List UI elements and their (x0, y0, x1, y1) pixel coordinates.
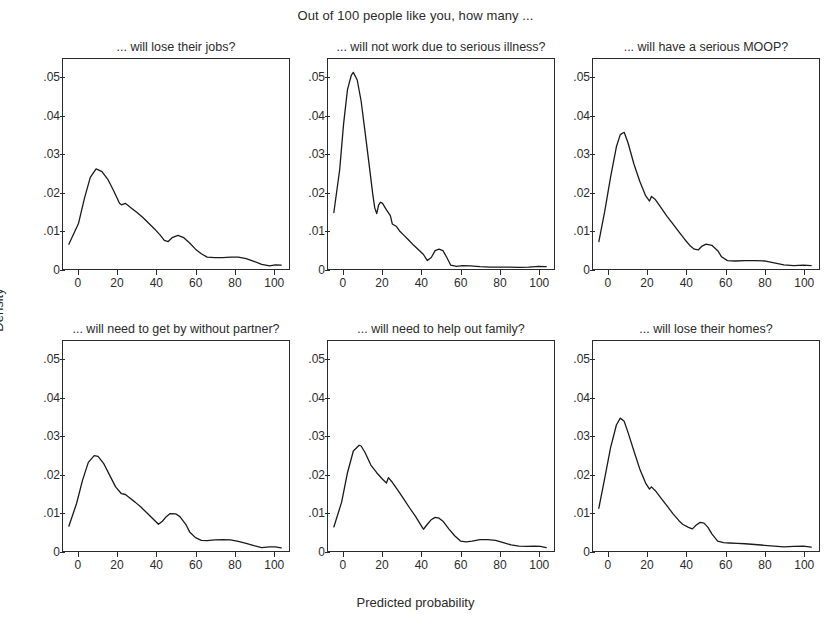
x-tick-label: 40 (680, 558, 693, 572)
x-tick-mark (804, 270, 805, 275)
y-tick-label: 0 (318, 263, 325, 277)
y-tick-label: .02 (43, 468, 60, 482)
y-tick-label: .04 (43, 391, 60, 405)
figure-title: Out of 100 people like you, how many ... (0, 8, 831, 23)
x-tick-mark (647, 552, 648, 557)
panel-serious-moop-plot-area (592, 58, 820, 270)
panel-serious-moop-x-axis: 020406080100 (592, 270, 820, 292)
x-tick-mark (647, 270, 648, 275)
y-tick-label: .01 (308, 224, 325, 238)
y-tick-label: .05 (43, 70, 60, 84)
x-tick-mark (382, 552, 383, 557)
x-tick-label: 80 (228, 558, 241, 572)
x-tick-mark (765, 270, 766, 275)
x-tick-label: 100 (794, 276, 814, 290)
x-tick-label: 60 (454, 558, 467, 572)
y-tick-mark (325, 475, 330, 476)
x-tick-mark (461, 552, 462, 557)
panel-lose-jobs-plot-area (62, 58, 290, 270)
panel-help-family-plot-area (327, 340, 555, 552)
panel-lose-jobs-density-curve (63, 59, 289, 269)
y-tick-label: .03 (43, 147, 60, 161)
y-tick-label: 0 (53, 263, 60, 277)
x-tick-label: 80 (228, 276, 241, 290)
y-tick-mark (590, 193, 595, 194)
x-tick-label: 60 (189, 558, 202, 572)
x-tick-mark (608, 270, 609, 275)
x-tick-label: 20 (110, 276, 123, 290)
x-tick-mark (726, 270, 727, 275)
y-tick-mark (325, 154, 330, 155)
panel-lose-jobs-title: ... will lose their jobs? (62, 40, 290, 54)
panel-lose-jobs-x-axis: 020406080100 (62, 270, 290, 292)
y-tick-label: 0 (318, 545, 325, 559)
y-tick-mark (325, 231, 330, 232)
x-tick-mark (804, 552, 805, 557)
y-tick-mark (590, 116, 595, 117)
y-tick-label: .01 (573, 506, 590, 520)
x-tick-label: 20 (110, 558, 123, 572)
x-tick-mark (421, 270, 422, 275)
x-tick-mark (765, 552, 766, 557)
x-tick-label: 0 (74, 276, 81, 290)
panel-serious-moop-title: ... will have a serious MOOP? (592, 40, 820, 54)
x-tick-label: 40 (415, 558, 428, 572)
x-tick-label: 40 (680, 276, 693, 290)
y-tick-mark (590, 359, 595, 360)
x-tick-mark (461, 270, 462, 275)
y-tick-mark (60, 77, 65, 78)
y-tick-mark (325, 359, 330, 360)
x-tick-label: 0 (74, 558, 81, 572)
x-tick-label: 20 (640, 276, 653, 290)
x-tick-label: 100 (794, 558, 814, 572)
x-tick-label: 20 (375, 276, 388, 290)
panel-without-partner-plot-area (62, 340, 290, 552)
x-tick-label: 60 (719, 276, 732, 290)
y-tick-label: .02 (573, 186, 590, 200)
y-tick-label: .03 (43, 429, 60, 443)
x-tick-label: 0 (604, 558, 611, 572)
y-tick-label: .04 (43, 109, 60, 123)
panel-serious-illness-plot-area (327, 58, 555, 270)
x-tick-label: 80 (758, 276, 771, 290)
x-tick-label: 60 (719, 558, 732, 572)
y-tick-label: .05 (573, 352, 590, 366)
y-tick-mark (60, 513, 65, 514)
y-tick-label: .04 (573, 391, 590, 405)
y-tick-mark (590, 154, 595, 155)
x-axis-title: Predicted probability (0, 595, 831, 610)
panel-lose-homes-x-axis: 020406080100 (592, 552, 820, 574)
panel-serious-moop-y-axis: 0.01.02.03.04.05 (560, 58, 590, 270)
panel-lose-jobs: ... will lose their jobs?0.01.02.03.04.0… (62, 40, 290, 270)
x-tick-mark (196, 270, 197, 275)
panel-lose-homes: ... will lose their homes?0.01.02.03.04.… (592, 322, 820, 552)
y-tick-mark (60, 475, 65, 476)
panel-help-family-x-axis: 020406080100 (327, 552, 555, 574)
panel-help-family-density-curve (328, 341, 554, 551)
y-tick-mark (60, 359, 65, 360)
y-tick-mark (590, 475, 595, 476)
x-tick-label: 100 (529, 558, 549, 572)
x-tick-label: 100 (264, 276, 284, 290)
y-tick-mark (325, 436, 330, 437)
panel-serious-moop: ... will have a serious MOOP?0.01.02.03.… (592, 40, 820, 270)
x-tick-mark (274, 270, 275, 275)
panel-lose-homes-y-axis: 0.01.02.03.04.05 (560, 340, 590, 552)
y-tick-label: .05 (308, 70, 325, 84)
x-tick-mark (539, 270, 540, 275)
panel-without-partner-y-axis: 0.01.02.03.04.05 (30, 340, 60, 552)
panel-help-family: ... will need to help out family?0.01.02… (327, 322, 555, 552)
y-tick-label: .01 (43, 224, 60, 238)
y-tick-mark (590, 513, 595, 514)
y-tick-mark (60, 436, 65, 437)
panel-help-family-title: ... will need to help out family? (327, 322, 555, 336)
x-tick-label: 80 (493, 558, 506, 572)
y-tick-mark (590, 398, 595, 399)
panel-lose-homes-plot-area (592, 340, 820, 552)
y-tick-label: .04 (308, 109, 325, 123)
x-tick-mark (608, 552, 609, 557)
y-tick-label: 0 (53, 545, 60, 559)
panel-help-family-y-axis: 0.01.02.03.04.05 (295, 340, 325, 552)
x-tick-mark (686, 270, 687, 275)
panel-serious-illness-title: ... will not work due to serious illness… (327, 40, 555, 54)
